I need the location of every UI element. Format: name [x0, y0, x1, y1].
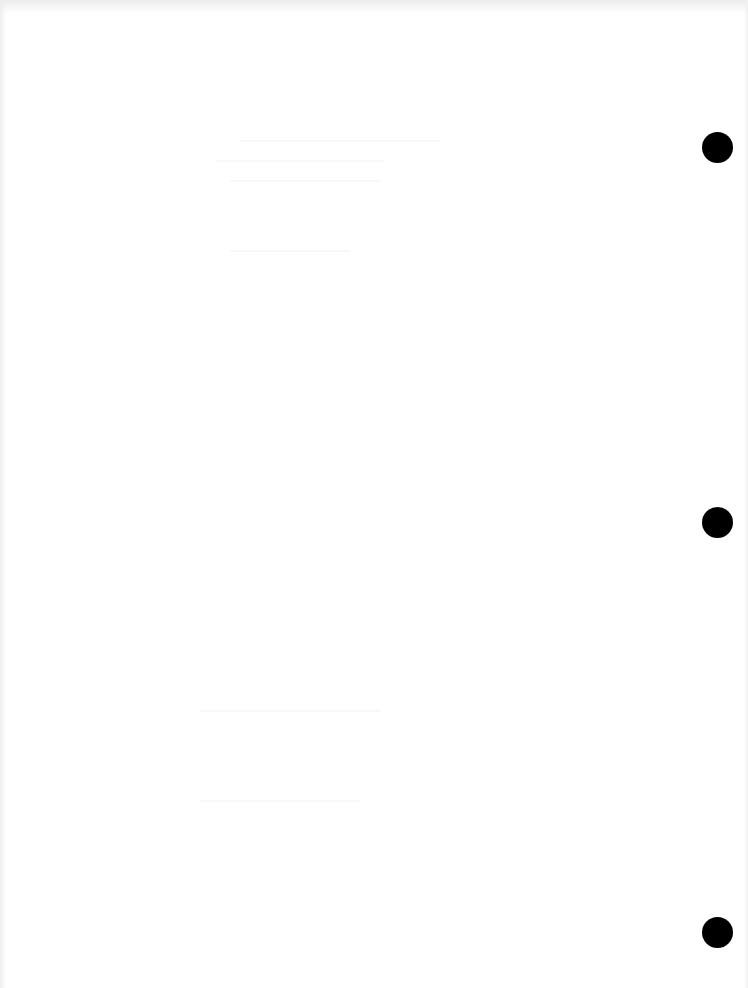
- bleed-through-line: [215, 160, 385, 162]
- scan-edge-top: [0, 0, 748, 14]
- scan-edge-right: [744, 0, 748, 988]
- punch-hole-top: [702, 132, 733, 163]
- bleed-through-line: [230, 180, 380, 182]
- bleed-through-line: [200, 710, 380, 712]
- bleed-through-line: [240, 140, 440, 142]
- punch-hole-bottom: [702, 917, 733, 948]
- punch-hole-middle: [702, 507, 733, 538]
- bleed-through-line: [200, 800, 360, 802]
- scanned-page: [0, 0, 748, 988]
- scan-edge-left: [0, 0, 6, 988]
- bleed-through-line: [230, 250, 350, 252]
